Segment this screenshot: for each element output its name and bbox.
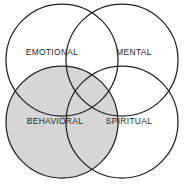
- circle-label-spiritual: SPIRITUAL: [106, 116, 152, 126]
- venn-diagram: EMOTIONAL MENTAL BEHAVIORAL SPIRITUAL: [0, 0, 184, 188]
- circle-label-emotional: EMOTIONAL: [26, 47, 78, 57]
- venn-diagram-canvas: EMOTIONAL MENTAL BEHAVIORAL SPIRITUAL: [0, 0, 184, 188]
- circle-label-mental: MENTAL: [116, 47, 151, 57]
- circle-outline-mental[interactable]: [66, 4, 178, 116]
- circle-label-behavioral: BEHAVIORAL: [27, 116, 83, 126]
